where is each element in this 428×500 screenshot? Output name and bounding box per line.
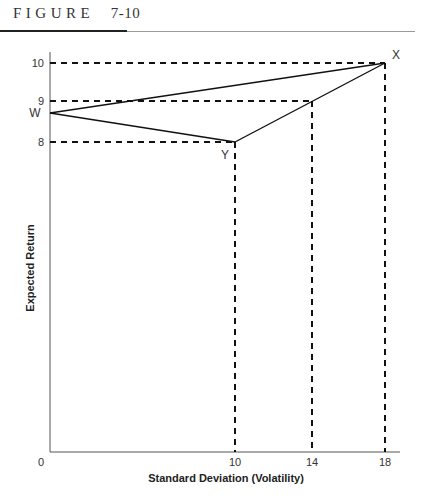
x-tick-10: 10: [229, 456, 241, 468]
x-axis-title: Standard Deviation (Volatility): [148, 472, 304, 484]
x-tick-14: 14: [306, 456, 318, 468]
y-tick-10: 10: [32, 57, 44, 69]
y-axis-title: Expected Return: [24, 224, 36, 312]
x-tick-0: 0: [38, 456, 44, 468]
chart-canvas: 10 9 8 0 10 14 18 W Y X Standard Deviati…: [0, 0, 428, 500]
point-label-y: Y: [221, 148, 229, 162]
y-tick-8: 8: [38, 136, 44, 148]
segment-w-y: [50, 113, 235, 142]
point-label-w: W: [29, 106, 41, 120]
segment-w-x: [50, 63, 385, 113]
x-tick-18: 18: [379, 456, 391, 468]
point-label-x: X: [392, 48, 400, 62]
